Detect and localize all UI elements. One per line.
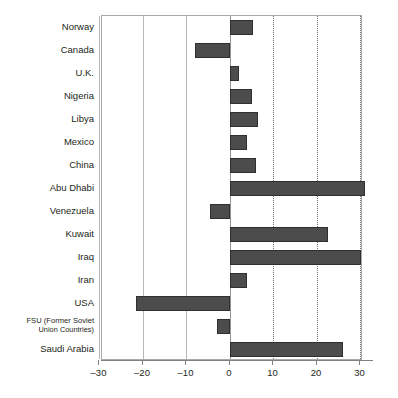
bar-row: [102, 39, 361, 62]
bar-fsu-former-soviet-union-countries[interactable]: [217, 319, 230, 334]
category-label: USA: [0, 297, 94, 308]
x-tick-0: [229, 360, 230, 365]
chart-title: [100, 0, 360, 6]
x-tick-label-0: 0: [209, 367, 249, 379]
x-tick--30: [98, 360, 99, 365]
category-label-line2: Union Countries): [0, 325, 94, 335]
bar-row: [102, 154, 361, 177]
x-tick-10: [272, 360, 273, 365]
category-label: Iraq: [0, 251, 94, 262]
bar-row: [102, 315, 361, 338]
bar-abu-dhabi[interactable]: [230, 181, 365, 196]
bar-saudi-arabia[interactable]: [230, 342, 343, 357]
category-label: Canada: [0, 44, 94, 55]
category-label: Venezuela: [0, 205, 94, 216]
x-tick-20: [316, 360, 317, 365]
category-label-line1: FSU (Former Soviet: [26, 316, 94, 325]
bar-row: [102, 200, 361, 223]
bar-row: [102, 16, 361, 39]
bar-kuwait[interactable]: [230, 227, 328, 242]
bar-usa[interactable]: [136, 296, 230, 311]
category-label: Abu Dhabi: [0, 182, 94, 193]
category-label: Norway: [0, 21, 94, 32]
bar-mexico[interactable]: [230, 135, 247, 150]
category-label: Kuwait: [0, 228, 94, 239]
bar-row: [102, 269, 361, 292]
bar-row: [102, 338, 361, 361]
bar-row: [102, 62, 361, 85]
bar-row: [102, 131, 361, 154]
bar-u-k[interactable]: [230, 66, 239, 81]
category-label: Nigeria: [0, 90, 94, 101]
bar-china[interactable]: [230, 158, 256, 173]
bar-norway[interactable]: [230, 20, 253, 35]
x-tick--10: [185, 360, 186, 365]
category-label: Saudi Arabia: [0, 343, 94, 354]
x-tick-label-30: 30: [340, 367, 380, 379]
gridline--30: [99, 16, 100, 359]
x-tick-label--20: –20: [122, 367, 162, 379]
bar-canada[interactable]: [195, 43, 230, 58]
category-label: Iran: [0, 274, 94, 285]
bar-row: [102, 292, 361, 315]
bar-row: [102, 246, 361, 269]
bar-iraq[interactable]: [230, 250, 361, 265]
x-tick--20: [142, 360, 143, 365]
plot-area: [101, 15, 362, 360]
x-tick-label-10: 10: [253, 367, 293, 379]
bar-iran[interactable]: [230, 273, 247, 288]
bar-nigeria[interactable]: [230, 89, 252, 104]
category-label: Libya: [0, 113, 94, 124]
category-label: Mexico: [0, 136, 94, 147]
bar-venezuela[interactable]: [210, 204, 230, 219]
category-label: FSU (Former SovietUnion Countries): [0, 316, 94, 335]
x-tick-30: [359, 360, 360, 365]
bar-row: [102, 108, 361, 131]
bar-chart-figure: NorwayCanadaU.K.NigeriaLibyaMexicoChinaA…: [0, 0, 398, 398]
bar-row: [102, 223, 361, 246]
category-label: U.K.: [0, 67, 94, 78]
x-tick-label--10: –10: [166, 367, 206, 379]
x-tick-label-20: 20: [296, 367, 336, 379]
x-tick-label--30: –30: [79, 367, 119, 379]
bar-row: [102, 177, 361, 200]
category-label: China: [0, 159, 94, 170]
bar-libya[interactable]: [230, 112, 258, 127]
bar-row: [102, 85, 361, 108]
